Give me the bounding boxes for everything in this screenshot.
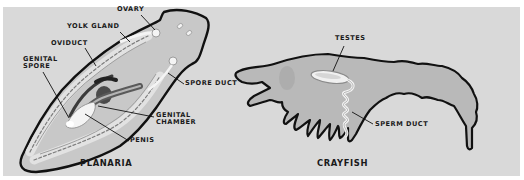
label-ovary: OVARY — [117, 6, 144, 13]
label-genital-spore: GENITAL SPORE — [23, 56, 58, 71]
label-genital-chamber-line2: CHAMBER — [156, 119, 196, 126]
planaria-illustration — [21, 10, 209, 172]
crayfish-title: CRAYFISH — [317, 158, 368, 168]
label-sperm-duct: SPERM DUCT — [375, 121, 428, 128]
planaria-title: PLANARIA — [80, 158, 132, 168]
label-oviduct: OVIDUCT — [51, 40, 88, 47]
crayfish-body — [235, 54, 477, 149]
label-penis: PENIS — [130, 137, 155, 144]
crayfish-illustration — [235, 46, 477, 149]
label-genital-chamber: GENITAL CHAMBER — [156, 112, 196, 127]
label-spore-duct: SPORE DUCT — [185, 80, 237, 87]
label-yolk-gland: YOLK GLAND — [67, 23, 119, 30]
label-genital-spore-line2: SPORE — [23, 63, 58, 70]
label-testes: TESTES — [335, 35, 366, 42]
